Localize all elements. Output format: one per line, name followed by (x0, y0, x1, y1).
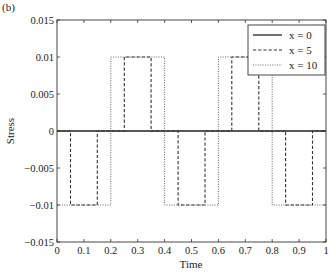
x-tick-label: 1 (323, 245, 328, 256)
x-tick-label: 0.2 (104, 245, 117, 256)
x-tick-label: 0.3 (131, 245, 144, 256)
x-axis-title: Time (180, 258, 203, 270)
y-tick-label: −0.01 (30, 200, 54, 211)
legend: x = 0x = 5x = 10 (248, 25, 325, 75)
plot-series (57, 57, 326, 205)
x-tick-label: 0.9 (293, 245, 306, 256)
y-tick-label: 0.005 (30, 89, 54, 100)
y-axis-title: Stress (4, 118, 16, 144)
legend-label-1: x = 5 (289, 44, 312, 56)
x-tick-label: 0.4 (158, 245, 172, 256)
x-tick-label: 0 (54, 245, 59, 256)
x-tick-label: 0.6 (212, 245, 225, 256)
y-tick-label: −0.015 (24, 237, 54, 248)
stress-time-chart: 00.10.20.30.40.50.60.70.80.91 −0.015−0.0… (0, 0, 330, 273)
y-tick-label: −0.005 (24, 163, 54, 174)
x-tick-label: 0.7 (239, 245, 252, 256)
x-tick-label: 0.8 (266, 245, 279, 256)
y-tick-label: 0 (49, 126, 54, 137)
y-tick-label: 0.01 (36, 52, 54, 63)
legend-label-0: x = 0 (289, 29, 312, 41)
x-tick-label: 0.1 (77, 245, 90, 256)
y-tick-label: 0.015 (30, 15, 54, 26)
x-tick-label: 0.5 (185, 245, 198, 256)
legend-label-2: x = 10 (289, 59, 318, 71)
